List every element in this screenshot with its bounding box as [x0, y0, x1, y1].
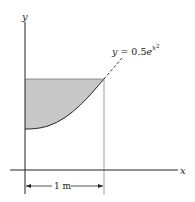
dimension-label: 1 m [54, 181, 72, 191]
x-axis-label: x [180, 165, 186, 176]
shaded-region [25, 79, 104, 129]
arrow-right-icon [98, 184, 103, 188]
y-axis-label: y [21, 11, 28, 22]
arrow-left-icon [26, 184, 31, 188]
curve-extension-dashed [104, 58, 122, 79]
curve-label: y = 0.5ex2 [111, 43, 160, 57]
diagram-canvas: y x y = 0.5ex2 1 m [0, 0, 195, 202]
curve-label-rest: = 0.5 [117, 46, 146, 57]
